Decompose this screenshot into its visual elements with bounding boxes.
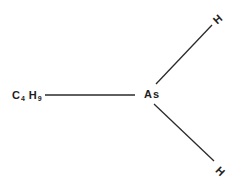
- bond-as-h-bottom: [154, 104, 214, 161]
- bond-as-h-top: [156, 25, 212, 84]
- hydrogen-symbol: H: [29, 89, 37, 101]
- arsenic-atom-label: As: [144, 89, 160, 100]
- carbon-symbol: C: [12, 89, 20, 101]
- chemical-structure-diagram: C4H9 As H H: [0, 0, 241, 185]
- carbon-count: 4: [21, 95, 25, 102]
- butyl-group-label: C4H9: [12, 90, 46, 102]
- hydrogen-count: 9: [38, 95, 42, 102]
